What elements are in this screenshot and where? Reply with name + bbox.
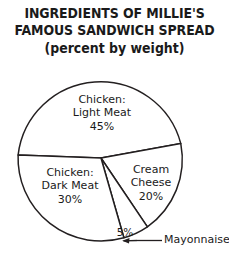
- label-cream-cheese-percent: 20%: [120, 190, 182, 203]
- label-light-meat-line-1: Chicken:: [47, 93, 157, 106]
- pie-chart-figure: INGREDIENTS OF MILLIE'S FAMOUS SANDWICH …: [0, 0, 229, 264]
- label-dark-meat-line-1: Chicken:: [26, 166, 114, 179]
- label-cream-cheese: Cream Cheese 20%: [120, 163, 182, 203]
- label-light-meat-line-2: Light Meat: [47, 106, 157, 119]
- label-dark-meat-line-2: Dark Meat: [26, 179, 114, 192]
- label-cream-cheese-line-1: Cream: [120, 163, 182, 176]
- label-dark-meat-percent: 30%: [26, 193, 114, 206]
- label-light-meat-percent: 45%: [47, 120, 157, 133]
- label-cream-cheese-line-2: Cheese: [120, 176, 182, 189]
- label-mayonnaise-name: Mayonnaise: [164, 233, 229, 246]
- label-mayonnaise-percent: 5%: [112, 226, 138, 239]
- label-light-meat: Chicken: Light Meat 45%: [47, 93, 157, 133]
- label-dark-meat: Chicken: Dark Meat 30%: [26, 166, 114, 206]
